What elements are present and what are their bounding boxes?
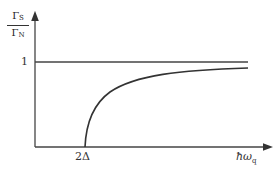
- x-label-main: ħω: [236, 150, 252, 163]
- y-axis-label: ΓS ΓN: [7, 10, 29, 41]
- y-label-numerator-sub: S: [19, 14, 24, 22]
- x-label-sub: q: [252, 157, 256, 165]
- y-label-denominator-sub: N: [18, 31, 24, 39]
- x-axis-label: ħωq: [236, 150, 257, 165]
- ratio-curve: [85, 68, 248, 147]
- y-tick-one: 1: [21, 55, 28, 68]
- x-tick-two-delta: 2Δ: [75, 150, 90, 163]
- fraction-bar: [7, 25, 29, 26]
- chart-canvas: [0, 0, 280, 174]
